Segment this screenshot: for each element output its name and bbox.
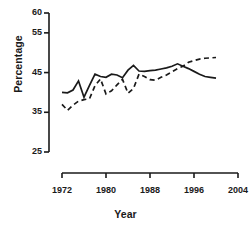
y-tick-label: 55 <box>20 28 42 37</box>
y-tick-label: 35 <box>20 107 42 116</box>
x-tick-label-1972: 1972 <box>42 186 82 195</box>
data-lines-group <box>62 57 216 110</box>
x-tick-label-2004: 2004 <box>218 186 251 195</box>
x-tick-label-1988: 1988 <box>130 186 170 195</box>
y-tick-label: 45 <box>20 68 42 77</box>
series-dashed-series <box>62 57 216 110</box>
y-tick-60: 60 <box>18 8 42 18</box>
x-tick-label-1996: 1996 <box>174 186 214 195</box>
y-tick-45: 45 <box>18 68 42 78</box>
axes-group <box>44 13 238 178</box>
x-tick-label-1980: 1980 <box>86 186 126 195</box>
y-tick-55: 55 <box>18 28 42 38</box>
chart-figure: Percentage Year 2535455560 1972198019881… <box>0 0 251 227</box>
y-tick-35: 35 <box>18 107 42 117</box>
series-solid-series <box>62 64 216 97</box>
x-axis-title: Year <box>0 208 251 220</box>
y-tick-label: 60 <box>20 8 42 17</box>
y-tick-25: 25 <box>18 147 42 157</box>
y-tick-label: 25 <box>20 147 42 156</box>
